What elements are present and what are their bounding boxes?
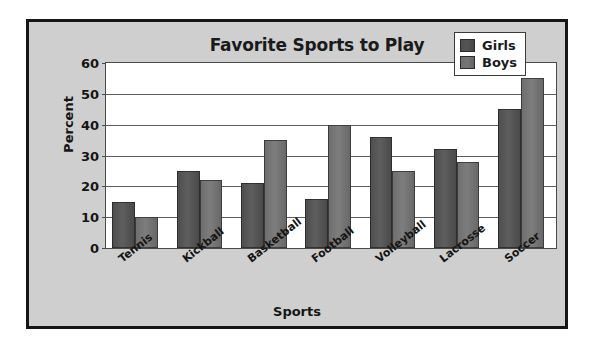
bar-basketball-girls — [241, 183, 264, 248]
legend-swatch-boys-icon — [460, 56, 475, 69]
bar-series — [106, 63, 556, 248]
bar-group — [106, 63, 170, 248]
bar-group — [492, 63, 556, 248]
bar-soccer-girls — [498, 109, 521, 248]
y-axis-tick-label: 30 — [81, 148, 99, 163]
y-axis-tick-label: 60 — [81, 56, 99, 71]
bar-kickball-girls — [177, 171, 200, 248]
bar-group — [170, 63, 234, 248]
legend-label-girls: Girls — [482, 38, 516, 53]
bar-group — [427, 63, 491, 248]
y-axis-tick-label: 40 — [81, 117, 99, 132]
bar-group — [299, 63, 363, 248]
plot-area: 0102030405060 — [105, 62, 557, 249]
legend-label-boys: Boys — [482, 55, 517, 70]
y-axis-tick-label: 0 — [90, 241, 99, 256]
chart-legend: Girls Boys — [454, 32, 526, 76]
x-axis-title: Sports — [29, 304, 565, 319]
y-axis-tick-label: 50 — [81, 86, 99, 101]
bar-lacrosse-girls — [434, 149, 457, 248]
y-axis-title: Percent — [61, 80, 76, 170]
bar-football-girls — [305, 199, 328, 248]
legend-item-boys: Boys — [460, 54, 517, 71]
legend-swatch-girls-icon — [460, 39, 475, 52]
y-axis-tick-label: 20 — [81, 179, 99, 194]
y-axis-tick-mark — [102, 248, 106, 249]
y-axis-tick-label: 10 — [81, 210, 99, 225]
legend-item-girls: Girls — [460, 37, 517, 54]
bar-volleyball-girls — [370, 137, 393, 248]
bar-soccer-boys — [521, 78, 544, 248]
chart-container: Favorite Sports to Play Girls Boys Perce… — [26, 19, 568, 329]
